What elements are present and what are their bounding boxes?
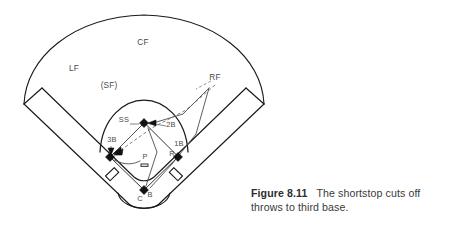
fence-end-cap-right [246,88,264,104]
outfield-fence-arc [24,15,264,104]
throw-line-home-to-second [146,128,157,186]
label-catcher: C [137,194,143,203]
cutoff-line-ss-to-second [117,126,141,150]
line-third-to-pitcher [114,160,140,164]
label-left-field: LF [69,64,79,73]
label-third-base: 3B [107,135,116,144]
label-pitcher: P [142,152,147,161]
label-runner: R [169,149,175,158]
baseball-field-figure: CF LF (SF) RF SS 3B 2B 1B P R C B Figure… [0,0,457,233]
label-shortstop: SS [119,115,129,124]
fence-end-cap-left [24,88,42,104]
label-second-base: 2B [166,120,175,129]
figure-caption: Figure 8.11The shortstop cuts off throws… [251,186,451,214]
coach-box-first [169,168,182,181]
label-batter: B [147,190,152,199]
pitchers-rubber [141,164,148,166]
figure-caption-number: Figure 8.11 [251,187,307,199]
label-center-field: CF [137,38,148,47]
label-right-field: RF [209,73,220,82]
label-short-field: (SF) [101,81,118,90]
leader-arrowhead-second-base [148,120,156,126]
label-first-base: 1B [174,139,183,148]
coach-box-third [106,168,119,181]
